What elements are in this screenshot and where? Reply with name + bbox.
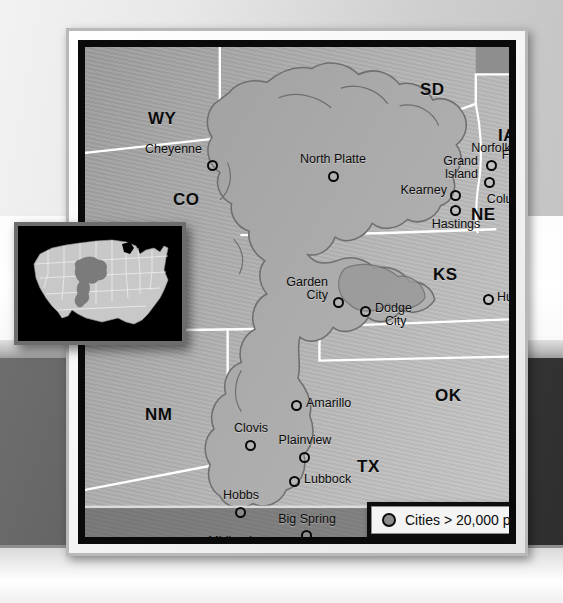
city-dot-hutchinson: [483, 294, 494, 305]
state-label-tx: TX: [357, 457, 380, 477]
city-label-north-platte: North Platte: [300, 153, 366, 166]
ogallala-aquifer-shape: [205, 63, 466, 508]
city-dot-amarillo: [291, 400, 302, 411]
city-label-cheyenne: Cheyenne: [145, 143, 202, 156]
city-label-grand-island: GrandIsland: [443, 155, 478, 180]
city-label-columbus: Columbus: [487, 193, 516, 206]
city-label-midland: Midland: [208, 535, 252, 544]
city-dot-grand-island: [484, 177, 495, 188]
city-label-lubbock: Lubbock: [304, 473, 351, 486]
city-dot-kearney: [450, 190, 461, 201]
us-landmass: [34, 240, 168, 324]
city-dot-hobbs: [235, 507, 246, 518]
legend-city-dot-icon: [382, 513, 396, 527]
city-dot-columbus: [509, 179, 516, 190]
city-label-dodge-city-l2: City: [385, 315, 407, 328]
city-label-dodge-city-l1: Dodge: [375, 301, 412, 315]
city-label-grand-island-l2: Island: [445, 167, 478, 181]
city-label-hastings: Hastings: [432, 218, 481, 231]
city-dot-big-spring: [301, 530, 312, 541]
state-label-ok: OK: [435, 386, 462, 406]
city-label-amarillo: Amarillo: [306, 397, 351, 410]
city-label-clovis: Clovis: [234, 422, 268, 435]
city-dot-dodge-city: [360, 306, 371, 317]
screenshot-root: WY SD IA CO NE KS OK NM TX Cheyenne: [0, 0, 563, 603]
city-dot-midland: [256, 538, 267, 544]
city-label-kearney: Kearney: [400, 184, 447, 197]
city-dot-cheyenne: [207, 160, 218, 171]
state-label-co: CO: [173, 190, 200, 210]
map-legend: Cities > 20,000 people: [367, 502, 516, 538]
city-dot-plainview: [299, 452, 310, 463]
city-dot-hastings: [450, 205, 461, 216]
us-locator-graphics: [18, 226, 182, 341]
city-label-garden-city-l2: City: [306, 288, 328, 302]
city-label-hutchinson: Hutchinson: [497, 291, 516, 304]
city-dot-north-platte: [328, 171, 339, 182]
city-label-fremont: Fremont: [502, 149, 516, 162]
city-label-big-spring: Big Spring: [278, 513, 336, 526]
state-label-nm: NM: [145, 405, 172, 425]
corner-shade-block: [476, 47, 509, 74]
us-locator-inset: [14, 222, 186, 345]
city-dot-garden-city: [333, 297, 344, 308]
city-dot-lubbock: [289, 476, 300, 487]
state-label-sd: SD: [420, 80, 445, 100]
city-label-dodge-city: DodgeCity: [375, 302, 412, 327]
state-label-wy: WY: [148, 109, 176, 129]
us-locator-inset-inner: [18, 226, 182, 341]
state-label-ks: KS: [433, 265, 458, 285]
city-label-hobbs: Hobbs: [223, 489, 259, 502]
map-legend-inner: Cities > 20,000 people: [371, 506, 516, 534]
legend-label: Cities > 20,000 people: [405, 512, 516, 528]
city-label-plainview: Plainview: [279, 434, 332, 447]
city-dot-clovis: [245, 440, 256, 451]
city-label-garden-city: GardenCity: [286, 276, 328, 301]
city-dot-norfolk: [486, 160, 497, 171]
